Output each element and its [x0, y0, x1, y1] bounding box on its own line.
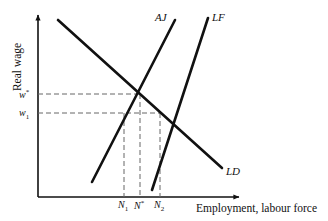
tick-label-w-one: w1 — [19, 108, 29, 121]
tick-base-n-one: N — [118, 199, 125, 210]
curve-label-lf: LF — [212, 12, 225, 23]
tick-label-n-two: N2 — [154, 200, 164, 213]
tick-label-n-star: N* — [134, 200, 144, 211]
curve-lf — [152, 18, 208, 190]
curve-label-ld: LD — [226, 166, 240, 177]
tick-mark-n-one: 1 — [125, 205, 129, 213]
tick-mark-w-one: 1 — [26, 113, 30, 121]
tick-base-w-one: w — [19, 107, 26, 118]
tick-base-w-star: w — [19, 89, 26, 100]
tick-label-w-star: w* — [19, 89, 29, 100]
diagram-svg — [0, 0, 328, 221]
tick-mark-w-star: * — [26, 88, 30, 96]
tick-base-n-star: N — [134, 200, 141, 211]
curve-label-aj: AJ — [155, 12, 167, 23]
figure-canvas: Real wage Employment, labour force AJ LF… — [0, 0, 328, 221]
tick-mark-n-star: * — [141, 199, 145, 207]
tick-mark-n-two: 2 — [161, 205, 165, 213]
x-axis-title: Employment, labour force — [196, 203, 317, 215]
tick-label-n-one: N1 — [118, 200, 128, 213]
tick-base-n-two: N — [154, 199, 161, 210]
